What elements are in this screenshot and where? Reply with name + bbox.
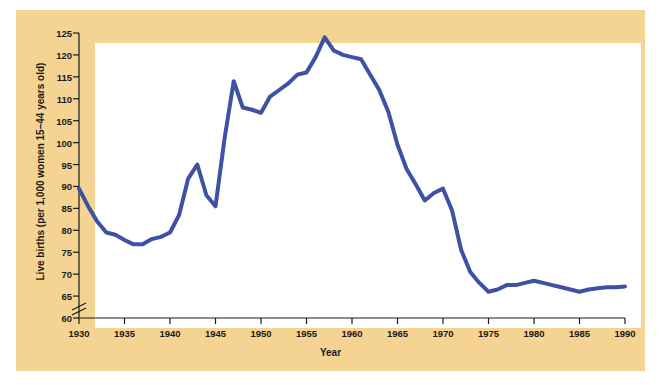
y-axis-tick-label: 120	[40, 49, 72, 60]
x-axis-ticks	[79, 318, 625, 324]
x-axis-tick-label: 1955	[296, 328, 317, 339]
x-axis-tick-label: 1935	[114, 328, 135, 339]
x-axis-tick-label: 1940	[159, 328, 180, 339]
x-axis-tick-label: 1990	[614, 328, 635, 339]
x-axis-tick-label: 1930	[68, 328, 89, 339]
axes-group	[72, 33, 625, 318]
y-axis-tick-label: 125	[40, 28, 72, 39]
y-axis-tick-label: 60	[40, 313, 72, 324]
x-axis-tick-label: 1970	[432, 328, 453, 339]
x-axis-tick-label: 1965	[387, 328, 408, 339]
y-axis-tick-label: 65	[40, 291, 72, 302]
x-axis-tick-label: 1975	[478, 328, 499, 339]
x-axis-tick-label: 1960	[341, 328, 362, 339]
birth-rate-chart-figure: 6065707580859095100105110115120125193019…	[0, 0, 661, 385]
x-axis-label: Year	[0, 347, 661, 358]
birth-rate-data-line	[79, 37, 625, 291]
chart-svg	[0, 0, 661, 385]
x-axis-tick-label: 1950	[250, 328, 271, 339]
x-axis-tick-label: 1980	[523, 328, 544, 339]
y-axis-label: Live births (per 1,000 women 15–44 years…	[35, 81, 46, 281]
y-axis-ticks	[73, 33, 79, 318]
x-axis-tick-label: 1985	[569, 328, 590, 339]
x-axis-tick-label: 1945	[205, 328, 226, 339]
